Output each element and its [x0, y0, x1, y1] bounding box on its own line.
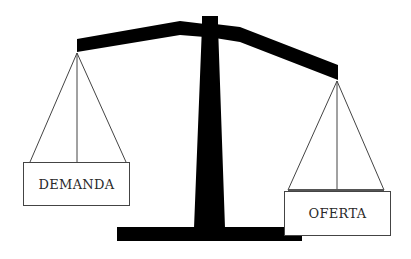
scale-beam-left [77, 21, 205, 52]
balance-scale-diagram: DEMANDA OFERTA [0, 0, 411, 259]
left-pan-strings [30, 53, 126, 162]
scale-beam-right [215, 24, 338, 80]
right-pan-strings [288, 81, 384, 190]
demanda-box: DEMANDA [23, 162, 130, 206]
oferta-label: OFERTA [309, 206, 367, 221]
scale-post [194, 16, 225, 228]
oferta-box: OFERTA [284, 191, 391, 236]
demanda-label: DEMANDA [39, 177, 115, 192]
scale-base [117, 227, 302, 241]
